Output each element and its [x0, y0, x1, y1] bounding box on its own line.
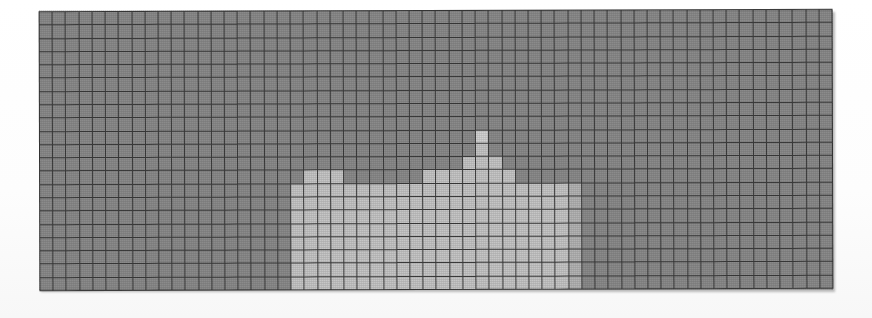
heatmap-cell [106, 198, 118, 210]
heatmap-cell [330, 25, 342, 37]
heatmap-cell [410, 197, 422, 209]
heatmap-cell [674, 143, 686, 155]
heatmap-cell [423, 38, 435, 50]
heatmap-cell [820, 236, 832, 248]
heatmap-cell [767, 76, 779, 88]
heatmap-cell [543, 276, 555, 288]
heatmap-cell [780, 196, 792, 208]
heatmap-cell [436, 91, 448, 103]
heatmap-cell [106, 105, 118, 117]
heatmap-cell [172, 198, 184, 210]
heatmap-cell [291, 51, 303, 63]
heatmap-cell [714, 156, 726, 168]
heatmap-cell [754, 236, 766, 248]
heatmap-cell [80, 158, 92, 170]
heatmap-cell [264, 65, 276, 77]
heatmap-cell [727, 130, 739, 142]
heatmap-cell [780, 76, 792, 88]
heatmap-cell [806, 63, 818, 75]
heatmap-cell [172, 78, 184, 90]
heatmap-cell [172, 251, 184, 263]
heatmap-cell [317, 78, 329, 90]
heatmap-cell [436, 11, 448, 23]
heatmap-cell [172, 105, 184, 117]
heatmap-cell [53, 39, 65, 51]
heatmap-cell [463, 223, 475, 235]
heatmap-cell [595, 170, 607, 182]
heatmap-cell [304, 104, 316, 116]
heatmap-cell [740, 116, 752, 128]
heatmap-cell [595, 90, 607, 102]
heatmap-cell [780, 129, 792, 141]
heatmap-cell [662, 276, 674, 288]
heatmap-cell [132, 131, 144, 143]
heatmap-cell [542, 143, 554, 155]
heatmap-cell [159, 92, 171, 104]
heatmap-cell [542, 37, 554, 49]
heatmap-cell [436, 24, 448, 36]
heatmap-cell [304, 131, 316, 143]
heatmap-cell [450, 117, 462, 129]
heatmap-cell [145, 52, 157, 64]
heatmap-cell [199, 184, 211, 196]
heatmap-cell [211, 12, 223, 24]
heatmap-cell [384, 197, 396, 209]
heatmap-cell [450, 144, 462, 156]
heatmap-cell [648, 63, 660, 75]
heatmap-cell [145, 12, 157, 24]
heatmap-cell [423, 144, 435, 156]
heatmap-cell [265, 251, 277, 263]
heatmap-cell [318, 237, 330, 249]
heatmap-cell [807, 222, 819, 234]
heatmap-cell [79, 105, 91, 117]
heatmap-cell [93, 92, 105, 104]
heatmap-cell [463, 210, 475, 222]
heatmap-cell [595, 157, 607, 169]
heatmap-cell [225, 237, 237, 249]
heatmap-cell [568, 50, 580, 62]
heatmap-cell [807, 183, 819, 195]
heatmap-cell [318, 144, 330, 156]
heatmap-cell [331, 224, 343, 236]
heatmap-cell [701, 249, 713, 261]
heatmap-cell [450, 250, 462, 262]
heatmap-cell [741, 262, 753, 274]
heatmap-cell [635, 196, 647, 208]
heatmap-cell [291, 25, 303, 37]
heatmap-cell [568, 77, 580, 89]
heatmap-cell [807, 143, 819, 155]
heatmap-cell [133, 158, 145, 170]
heatmap-cell [357, 144, 369, 156]
heatmap-cell [198, 78, 210, 90]
heatmap-cell [423, 184, 435, 196]
heatmap-cell [383, 64, 395, 76]
heatmap-cell [449, 51, 461, 63]
heatmap-cell [569, 197, 581, 209]
heatmap-cell [609, 210, 621, 222]
heatmap-cell [437, 237, 449, 249]
heatmap-cell [93, 211, 105, 223]
heatmap-cell [701, 103, 713, 115]
heatmap-cell [185, 91, 197, 103]
heatmap-cell [489, 144, 501, 156]
heatmap-cell [133, 224, 145, 236]
heatmap-cell [317, 104, 329, 116]
heatmap-cell [516, 157, 528, 169]
heatmap-cell [727, 76, 739, 88]
heatmap-cell [133, 198, 145, 210]
heatmap-cell [648, 210, 660, 222]
heatmap-cell [555, 37, 567, 49]
heatmap-cell [66, 92, 78, 104]
heatmap-cell [397, 51, 409, 63]
heatmap-cell [820, 156, 832, 168]
heatmap-cell [701, 183, 713, 195]
heatmap-cell [595, 130, 607, 142]
heatmap-cell [185, 105, 197, 117]
heatmap-cell [120, 251, 132, 263]
heatmap-cell [106, 39, 118, 51]
heatmap-cell [582, 143, 594, 155]
heatmap-cell [383, 24, 395, 36]
heatmap-cell [648, 170, 660, 182]
heatmap-cell [53, 238, 65, 250]
heatmap-cell [700, 23, 712, 35]
